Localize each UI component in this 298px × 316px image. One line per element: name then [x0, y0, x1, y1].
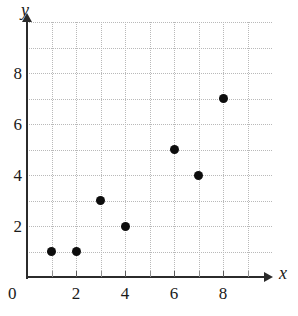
gridline-horizontal [27, 150, 272, 151]
y-axis-line [26, 20, 28, 279]
gridline-horizontal [27, 226, 272, 227]
gridline-horizontal [27, 175, 272, 176]
x-axis-tick [199, 271, 200, 277]
gridline-horizontal [27, 252, 272, 253]
gridline-horizontal [27, 124, 272, 125]
data-point [121, 222, 130, 231]
x-axis-tick [125, 271, 126, 277]
x-axis-arrow-icon [264, 272, 273, 282]
x-axis-tick-label: 6 [170, 285, 179, 302]
gridline-horizontal [27, 99, 272, 100]
y-axis-tick-label: 4 [4, 167, 22, 184]
x-axis-tick [76, 271, 77, 277]
origin-tick-label: 0 [8, 285, 17, 302]
data-point [194, 171, 203, 180]
gridline-horizontal [27, 48, 272, 49]
gridline-horizontal [27, 201, 272, 202]
x-axis-label: x [279, 264, 287, 282]
x-axis-tick [52, 271, 53, 277]
data-point [47, 247, 56, 256]
plot-area [27, 22, 272, 277]
y-axis-tick-label: 6 [4, 116, 22, 133]
scatter-plot-figure: 24682468 0 y x [0, 0, 298, 316]
gridline-horizontal [27, 22, 272, 23]
x-axis-tick-label: 2 [72, 285, 81, 302]
x-axis-line [27, 276, 267, 278]
gridline-horizontal [27, 73, 272, 74]
x-axis-tick-label: 4 [121, 285, 130, 302]
x-axis-tick [150, 271, 151, 277]
y-axis-label: y [21, 1, 29, 19]
data-point [219, 94, 228, 103]
x-axis-tick [174, 271, 175, 277]
y-axis-tick-label: 2 [4, 218, 22, 235]
gridlines [27, 22, 272, 277]
data-point [96, 196, 105, 205]
y-axis-tick-label: 8 [4, 65, 22, 82]
x-axis-tick [223, 271, 224, 277]
x-axis-tick [248, 271, 249, 277]
x-axis-tick-label: 8 [219, 285, 228, 302]
x-axis-tick [101, 271, 102, 277]
data-point [72, 247, 81, 256]
data-point [170, 145, 179, 154]
